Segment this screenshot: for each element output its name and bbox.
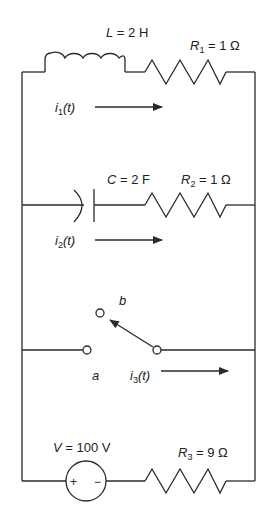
switch-terminal-a-label: a [92, 368, 99, 383]
circuit-diagram: L = 2 H R1 = 1 Ω i1(t) C = 2 F R2 = 1 Ω … [0, 0, 275, 530]
plus-terminal-icon: + [70, 475, 77, 489]
voltage-source-label: V = 100 V [53, 440, 111, 455]
capacitor-curved-plate [74, 190, 82, 222]
inductor-label: L = 2 H [106, 25, 148, 40]
branch-4: + − V = 100 V R3 = 9 Ω [22, 440, 255, 501]
branch-3: b a i3(t) [22, 293, 255, 385]
current-i2-label: i2(t) [55, 233, 75, 250]
capacitor-label: C = 2 F [107, 172, 150, 187]
inductor-symbol [45, 52, 125, 72]
switch-terminal-a [83, 346, 91, 354]
switch-terminal-b-label: b [119, 293, 126, 308]
switch-pivot [153, 346, 161, 354]
branch-1: L = 2 H R1 = 1 Ω i1(t) [22, 25, 255, 117]
current-i3-label: i3(t) [130, 368, 150, 385]
minus-terminal-icon: − [94, 475, 101, 489]
switch-terminal-b [96, 309, 104, 317]
resistor-r3-label: R3 = 9 Ω [178, 445, 228, 462]
branch-2: C = 2 F R2 = 1 Ω i2(t) [22, 172, 255, 250]
switch-blade-arrow-icon [110, 320, 153, 347]
resistor-r2-label: R2 = 1 Ω [181, 172, 231, 189]
resistor-r1-label: R1 = 1 Ω [190, 38, 240, 55]
resistor-r2-symbol [145, 193, 226, 217]
current-i1-label: i1(t) [55, 100, 75, 117]
resistor-r1-symbol [145, 60, 226, 84]
resistor-r3-symbol [145, 469, 226, 493]
